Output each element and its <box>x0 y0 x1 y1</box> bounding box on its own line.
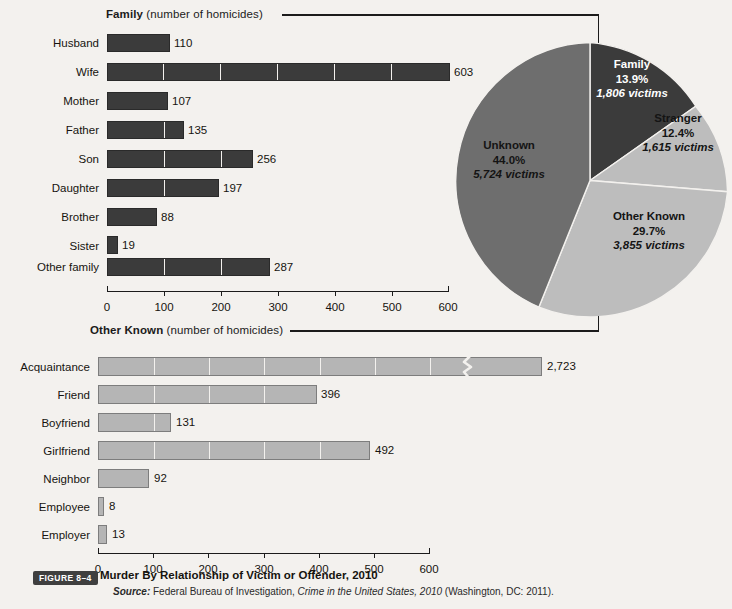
family-axis-endcap-left <box>107 286 108 292</box>
ok-bar-girlfriend <box>98 441 370 460</box>
ok-axis-endcap-right <box>429 548 430 554</box>
pie-label-other-known-percent: 29.7% <box>584 224 714 239</box>
ok-value-neighbor: 92 <box>154 472 167 484</box>
family-bar-father <box>107 121 184 139</box>
family-bar-mother <box>107 92 168 110</box>
relationship-pie-chart: Family 13.9% 1,806 victims Stranger 12.4… <box>452 42 728 319</box>
family-cat-label-husband: Husband <box>0 37 99 49</box>
family-cat-label-other-family: Other family <box>0 261 99 273</box>
ok-bar-employer <box>98 525 107 544</box>
figure-number-badge: FIGURE 8–4 <box>33 571 98 585</box>
family-xtick-200: 200 <box>201 301 241 313</box>
ok-cat-label-girlfriend: Girlfriend <box>0 445 90 457</box>
ok-bar-boyfriend <box>98 413 171 432</box>
pie-label-family: Family 13.9% 1,806 victims <box>572 57 692 101</box>
ok-value-friend: 396 <box>321 388 340 400</box>
ok-value-boyfriend: 131 <box>176 416 195 428</box>
pie-label-stranger-victims: 1,615 victims <box>618 140 732 155</box>
family-bar-husband <box>107 34 170 52</box>
family-xtick-100: 100 <box>144 301 184 313</box>
family-value-father: 135 <box>188 124 207 136</box>
pie-label-unknown-name: Unknown <box>444 138 574 153</box>
pie-label-stranger: Stranger 12.4% 1,615 victims <box>618 111 732 155</box>
pie-label-family-name: Family <box>572 57 692 72</box>
ok-cat-label-acquaintance: Acquaintance <box>0 361 90 373</box>
family-value-son: 256 <box>257 153 276 165</box>
family-value-mother: 107 <box>172 95 191 107</box>
family-cat-label-son: Son <box>0 153 99 165</box>
pie-label-stranger-percent: 12.4% <box>618 126 732 141</box>
pie-label-stranger-name: Stranger <box>618 111 732 126</box>
pie-label-other-known: Other Known 29.7% 3,855 victims <box>584 209 714 253</box>
other-known-connector-vertical <box>598 316 600 331</box>
ok-bar-employee <box>98 497 104 516</box>
figure-source-label: Source: <box>113 586 150 597</box>
ok-xtick-600: 600 <box>409 563 449 575</box>
family-bar-wife <box>107 63 450 81</box>
family-cat-label-wife: Wife <box>0 66 99 78</box>
family-cat-label-daughter: Daughter <box>0 182 99 194</box>
pie-label-other-known-name: Other Known <box>584 209 714 224</box>
ok-value-girlfriend: 492 <box>375 444 394 456</box>
ok-cat-label-employer: Employer <box>0 529 90 541</box>
pie-label-family-victims: 1,806 victims <box>572 86 692 101</box>
family-value-other-family: 287 <box>274 261 293 273</box>
family-chart-title: Family (number of homicides) <box>106 8 263 20</box>
figure-source-pre: Federal Bureau of Investigation, <box>150 586 297 597</box>
pie-label-unknown-victims: 5,724 victims <box>444 167 574 182</box>
ok-cat-label-employee: Employee <box>0 501 90 513</box>
family-connector-horizontal <box>282 14 599 16</box>
family-value-husband: 110 <box>174 37 192 49</box>
other-known-chart-title: Other Known (number of homicides) <box>90 324 283 336</box>
family-chart-title-suffix: (number of homicides) <box>146 8 263 20</box>
family-axis-endcap-right <box>448 286 449 292</box>
ok-bar-neighbor <box>98 469 149 488</box>
other-known-chart-title-main: Other Known <box>90 324 163 336</box>
family-cat-label-brother: Brother <box>0 211 99 223</box>
family-value-sister: 19 <box>122 239 135 251</box>
pie-label-other-known-victims: 3,855 victims <box>584 238 714 253</box>
family-cat-label-father: Father <box>0 124 99 136</box>
ok-value-employee: 8 <box>109 500 115 512</box>
ok-value-employer: 13 <box>112 528 125 540</box>
other-known-connector-horizontal <box>290 330 599 332</box>
pie-label-unknown: Unknown 44.0% 5,724 victims <box>444 138 574 182</box>
figure-source-post: (Washington, DC: 2011). <box>442 586 554 597</box>
family-bar-brother <box>107 208 157 226</box>
pie-label-family-percent: 13.9% <box>572 72 692 87</box>
family-value-daughter: 197 <box>223 182 242 194</box>
family-bar-daughter <box>107 179 219 197</box>
family-xtick-400: 400 <box>315 301 355 313</box>
family-cat-label-mother: Mother <box>0 95 99 107</box>
ok-cat-label-boyfriend: Boyfriend <box>0 417 90 429</box>
figure-source: Source: Federal Bureau of Investigation,… <box>113 586 554 597</box>
ok-value-acquaintance: 2,723 <box>547 360 576 372</box>
family-xtick-300: 300 <box>258 301 298 313</box>
family-xtick-0: 0 <box>87 301 127 313</box>
ok-axis-endcap-left <box>98 548 99 554</box>
family-cat-label-sister: Sister <box>0 240 99 252</box>
ok-bar-friend <box>98 385 317 404</box>
other-known-chart-title-suffix: (number of homicides) <box>167 324 284 336</box>
family-xtick-500: 500 <box>372 301 412 313</box>
family-bar-sister <box>107 236 118 254</box>
family-chart-title-main: Family <box>106 8 143 20</box>
ok-cat-label-neighbor: Neighbor <box>0 473 90 485</box>
ok-cat-label-friend: Friend <box>0 389 90 401</box>
figure-source-italic: Crime in the United States, 2010 <box>298 586 443 597</box>
family-bar-other-family <box>107 258 270 276</box>
pie-label-unknown-percent: 44.0% <box>444 153 574 168</box>
family-value-brother: 88 <box>161 211 174 223</box>
figure-title: Murder By Relationship of Victim or Offe… <box>100 569 378 581</box>
family-bar-son <box>107 150 253 168</box>
axis-break-icon <box>458 354 480 380</box>
